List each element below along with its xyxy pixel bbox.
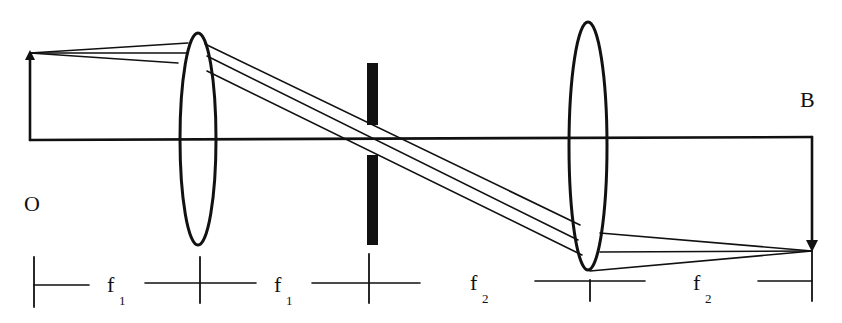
object-arrow xyxy=(25,50,35,140)
image-label: B xyxy=(800,87,815,112)
scale-label-f1-b: f 1 xyxy=(274,272,293,308)
arrowhead-up-icon xyxy=(25,50,35,60)
optics-diagram: O B f 1 f 1 f 2 f 2 xyxy=(0,0,842,323)
svg-text:1: 1 xyxy=(286,293,293,308)
scale-label-f2-a: f 2 xyxy=(470,270,489,306)
object-label: O xyxy=(24,191,40,216)
svg-text:f: f xyxy=(470,270,478,295)
svg-text:2: 2 xyxy=(482,291,489,306)
incident-rays xyxy=(30,43,188,63)
svg-text:f: f xyxy=(693,270,701,295)
svg-text:2: 2 xyxy=(705,291,712,306)
scale-label-f2-b: f 2 xyxy=(693,270,712,306)
collimated-rays xyxy=(205,44,582,255)
svg-text:f: f xyxy=(274,272,282,297)
lens-2 xyxy=(569,22,607,270)
converging-rays xyxy=(590,233,812,271)
svg-text:f: f xyxy=(107,272,115,297)
svg-text:1: 1 xyxy=(119,293,126,308)
optical-axis xyxy=(30,137,812,140)
image-arrow xyxy=(806,137,818,252)
scale-label-f1-a: f 1 xyxy=(107,272,126,308)
